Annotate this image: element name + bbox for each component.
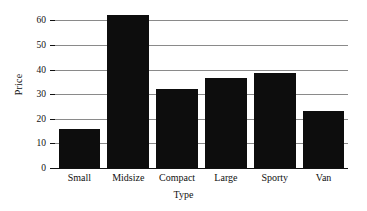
x-axis-tick-label: Sporty <box>250 172 299 183</box>
y-axis-tick-label: 50 <box>0 40 53 50</box>
bar <box>303 111 345 168</box>
x-axis-tick-label: Van <box>299 172 348 183</box>
y-axis-tick-mark <box>50 20 55 21</box>
x-axis-tick-label: Midsize <box>104 172 153 183</box>
x-axis-tick-label: Large <box>202 172 251 183</box>
y-axis-tick-mark <box>50 94 55 95</box>
gridline <box>55 94 348 95</box>
bar <box>205 78 247 168</box>
bar <box>156 89 198 168</box>
y-axis-tick-label: 20 <box>0 114 53 124</box>
bar-chart: Price 0102030405060 SmallMidsizeCompactL… <box>0 0 367 211</box>
gridline <box>55 45 348 46</box>
x-axis-tick-label: Compact <box>153 172 202 183</box>
x-axis-tick-label: Small <box>55 172 104 183</box>
y-axis-tick-label: 0 <box>0 163 53 173</box>
y-axis-tick-label: 60 <box>0 15 53 25</box>
y-axis-tick-label: 30 <box>0 89 53 99</box>
bar <box>59 129 101 168</box>
bar <box>254 73 296 168</box>
y-axis-tick-mark <box>50 119 55 120</box>
x-axis-line <box>55 168 348 169</box>
gridline <box>55 20 348 21</box>
plot-area <box>55 8 348 168</box>
y-axis-tick-label: 40 <box>0 65 53 75</box>
y-axis-tick-mark <box>50 143 55 144</box>
y-axis-tick-mark <box>50 45 55 46</box>
bar <box>107 15 149 168</box>
gridline <box>55 70 348 71</box>
y-axis-tick-mark <box>50 70 55 71</box>
y-axis-tick-mark <box>50 168 55 169</box>
y-axis-tick-label: 10 <box>0 138 53 148</box>
x-axis-title: Type <box>0 189 367 200</box>
